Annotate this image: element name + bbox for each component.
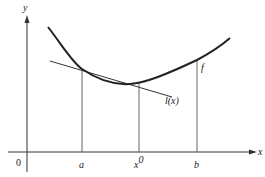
function-curve — [48, 27, 230, 84]
y-axis-label: y — [22, 2, 28, 13]
diagram-canvas: y x 0 a x0 b f l(x) — [0, 0, 265, 177]
origin-label: 0 — [16, 157, 21, 168]
tangent-label: l(x) — [165, 95, 180, 107]
x-axis-arrow-icon — [249, 150, 257, 155]
tick-label-x0-sup: 0 — [138, 154, 143, 165]
tick-label-a: a — [79, 159, 84, 170]
y-axis-arrow-icon — [25, 15, 30, 23]
x-axis-label: x — [257, 146, 263, 157]
function-label: f — [201, 62, 205, 73]
tick-label-b: b — [194, 159, 199, 170]
tick-label-x0: x0 — [133, 154, 143, 170]
